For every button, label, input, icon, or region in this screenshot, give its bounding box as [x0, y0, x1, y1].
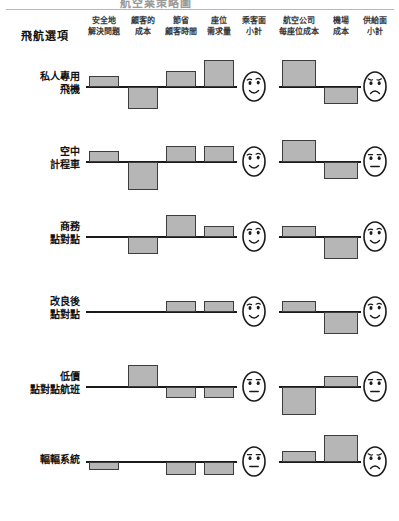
bar-r3-c3	[166, 215, 196, 237]
column-header-line1: 節省	[173, 16, 189, 25]
row-label-6: 輻輻系統	[0, 453, 80, 466]
strategy-canvas-chart: 航空業策略圖 飛航選項 安全地解決問題顧客的成本節省顧客時間座位需求量乘客面小計…	[0, 0, 399, 521]
face-supply-subtotal-row6	[362, 445, 388, 481]
bar-r5-c6	[282, 387, 316, 415]
bar-r1-c3	[166, 71, 196, 88]
bar-r1-c6	[282, 60, 316, 88]
row-label-line1: 商務	[0, 220, 80, 233]
face-passenger-subtotal-row1	[241, 70, 267, 106]
face-supply-subtotal-row4	[362, 295, 388, 331]
bar-r6-c7	[324, 435, 358, 463]
bar-r2-c7	[324, 162, 358, 179]
row-header-title: 飛航選項	[10, 27, 80, 43]
row-label-4: 改良後點對點	[0, 295, 80, 321]
row-label-2: 空中計程車	[0, 145, 80, 171]
column-header-line1: 安全地	[92, 16, 116, 25]
row-label-line2: 飛機	[0, 83, 80, 96]
row-label-line1: 改良後	[0, 295, 80, 308]
bar-r4-c3	[166, 301, 196, 312]
bar-r1-c2	[128, 87, 158, 109]
row-label-line1: 空中	[0, 145, 80, 158]
face-passenger-subtotal-row5	[241, 370, 267, 406]
bar-r6-c4	[204, 462, 234, 475]
row-label-1: 私人專用飛機	[0, 70, 80, 96]
chart-row: 私人專用飛機	[0, 58, 399, 133]
face-supply-subtotal-row1	[362, 70, 388, 106]
bar-r5-c2	[128, 365, 158, 387]
row-label-line1: 私人專用	[0, 70, 80, 83]
face-supply-subtotal-row2	[362, 145, 388, 181]
bar-r2-c2	[128, 162, 158, 190]
bar-r5-c3	[166, 387, 196, 398]
bar-r5-c7	[324, 376, 358, 387]
bar-r2-c4	[204, 146, 234, 163]
bar-r6-c3	[166, 462, 196, 475]
row-label-line2: 計程車	[0, 158, 80, 171]
bar-r4-c7	[324, 312, 358, 334]
row-label-line2: 點對點航班	[0, 383, 80, 396]
column-header-line2: 每座位成本	[276, 27, 322, 38]
bar-r2-c1	[89, 151, 119, 162]
bar-r6-c1	[89, 462, 119, 470]
face-passenger-subtotal-row4	[241, 295, 267, 331]
face-supply-subtotal-row5	[362, 370, 388, 406]
bar-r2-c6	[282, 140, 316, 162]
column-header-6: 航空公司每座位成本	[276, 16, 322, 37]
chart-row: 空中計程車	[0, 133, 399, 208]
column-header-8: 供給面小計	[352, 16, 398, 37]
bar-r2-c3	[166, 146, 196, 163]
row-label-line2: 點對點	[0, 308, 80, 321]
clipped-title: 航空業策略圖	[0, 0, 399, 9]
row-label-3: 商務點對點	[0, 220, 80, 246]
row-label-line1: 低價	[0, 370, 80, 383]
bar-r5-c4	[204, 387, 234, 398]
bar-r6-c6	[282, 451, 316, 462]
column-header-line1: 顧客的	[131, 16, 155, 25]
bar-r3-c6	[282, 226, 316, 237]
column-header-line1: 供給面	[363, 16, 387, 25]
face-passenger-subtotal-row3	[241, 220, 267, 256]
bar-r3-c7	[324, 237, 358, 259]
bar-r1-c1	[89, 76, 119, 87]
column-header-line2: 小計	[231, 27, 277, 38]
face-passenger-subtotal-row6	[241, 445, 267, 481]
bar-r4-c4	[204, 301, 234, 312]
top-divider	[6, 9, 394, 10]
column-header-line1: 乘客面	[242, 16, 266, 25]
column-header-line1: 機場	[333, 16, 349, 25]
bar-r3-c4	[204, 226, 234, 237]
row-label-5: 低價點對點航班	[0, 370, 80, 396]
bar-r1-c4	[204, 60, 234, 88]
bar-r3-c2	[128, 237, 158, 254]
column-header-line2: 小計	[352, 27, 398, 38]
chart-row: 商務點對點	[0, 208, 399, 283]
chart-row: 改良後點對點	[0, 283, 399, 358]
face-passenger-subtotal-row2	[241, 145, 267, 181]
face-supply-subtotal-row3	[362, 220, 388, 256]
row-label-line1: 輻輻系統	[0, 453, 80, 466]
column-header-line1: 座位	[211, 16, 227, 25]
bar-r1-c7	[324, 87, 358, 104]
row-label-line2: 點對點	[0, 233, 80, 246]
chart-row: 低價點對點航班	[0, 358, 399, 433]
clipped-title-text: 航空業策略圖	[120, 0, 192, 9]
column-header-5: 乘客面小計	[231, 16, 277, 37]
column-header-line1: 航空公司	[283, 16, 315, 25]
chart-row: 輻輻系統	[0, 433, 399, 508]
bar-r4-c6	[282, 301, 316, 312]
